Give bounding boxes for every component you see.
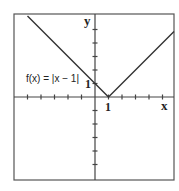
y-tick-label-1: 1 — [85, 78, 91, 90]
y-axis-label: y — [84, 14, 91, 27]
axes — [14, 14, 174, 180]
function-label: f(x) = |x − 1| — [26, 74, 79, 84]
x-axis-label: x — [161, 99, 168, 112]
function-graph — [0, 0, 179, 191]
x-tick-label-1: 1 — [105, 101, 111, 113]
function-curve — [28, 16, 175, 97]
